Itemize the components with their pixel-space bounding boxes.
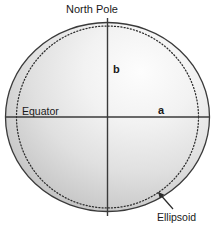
label-ellipsoid: Ellipsoid [157,212,196,223]
label-semi-minor-axis-b: b [113,64,120,75]
label-equator: Equator [22,106,59,117]
label-semi-major-axis-a: a [158,105,164,116]
label-north-pole: North Pole [66,4,118,15]
ellipsoid-diagram: North Pole Equator b a Ellipsoid [0,0,215,233]
